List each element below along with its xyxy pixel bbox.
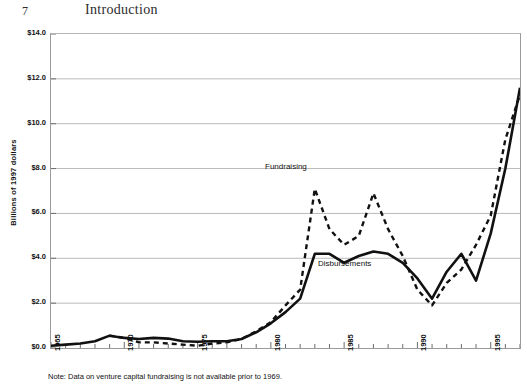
y-tick-label: $10.0 bbox=[6, 118, 46, 127]
x-tick-label: 1975 bbox=[200, 334, 209, 351]
page-header: 7 Introduction bbox=[0, 0, 527, 28]
x-axis-tick-marks bbox=[51, 342, 520, 348]
series-line-disbursements bbox=[51, 88, 520, 346]
y-tick-label: $6.0 bbox=[6, 207, 46, 216]
running-head-title: Introduction bbox=[85, 2, 158, 18]
chart-canvas bbox=[51, 34, 520, 348]
y-tick-label: $4.0 bbox=[6, 252, 46, 261]
x-tick-label: 1995 bbox=[493, 334, 502, 351]
chart-figure: Billions of 1997 dollars $0.0$2.0$4.0$6.… bbox=[0, 28, 527, 388]
y-tick-label: $14.0 bbox=[6, 28, 46, 37]
data-series-layer bbox=[51, 88, 520, 346]
y-tick-label: $12.0 bbox=[6, 73, 46, 82]
x-tick-label: 1985 bbox=[346, 334, 355, 351]
y-tick-label: $0.0 bbox=[6, 342, 46, 351]
series-line-fundraising bbox=[110, 95, 520, 346]
series-label-disbursements: Disbursements bbox=[318, 259, 371, 268]
y-axis-tick-marks bbox=[51, 34, 56, 348]
y-tick-label: $2.0 bbox=[6, 297, 46, 306]
series-label-fundraising: Fundraising bbox=[265, 162, 307, 171]
x-tick-label: 1970 bbox=[126, 334, 135, 351]
plot-area bbox=[50, 33, 521, 349]
x-tick-label: 1965 bbox=[53, 334, 62, 351]
y-axis-title: Billions of 1997 dollars bbox=[9, 123, 18, 243]
figure-note: Note: Data on venture capital fundraisin… bbox=[48, 372, 282, 381]
x-tick-label: 1990 bbox=[419, 334, 428, 351]
page-number: 7 bbox=[22, 4, 28, 19]
x-tick-label: 1980 bbox=[273, 334, 282, 351]
y-tick-label: $8.0 bbox=[6, 163, 46, 172]
